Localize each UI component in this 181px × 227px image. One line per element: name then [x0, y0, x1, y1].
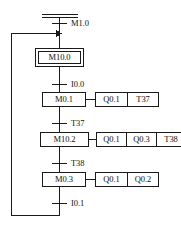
action-row-step-3: Q0.1 Q0.2	[95, 172, 159, 187]
transition-label-i0-1: I0.1	[71, 199, 84, 208]
transition-label-m1-0: M1.0	[71, 19, 89, 28]
step-m10-2[interactable]: M10.2	[40, 132, 89, 147]
step-m10-2-label: M10.2	[54, 135, 76, 144]
action-row-step-1: Q0.1 T37	[95, 92, 159, 107]
step-m0-3-label: M0.3	[55, 175, 73, 184]
action-t37-step-1[interactable]: T37	[127, 92, 159, 107]
transition-label-t37: T37	[71, 119, 84, 128]
sfc-diagram: M10.0 M0.1 Q0.1 T37 M10.2 Q0.1 Q0.3 T38 …	[0, 0, 181, 227]
step-m0-3[interactable]: M0.3	[42, 172, 86, 187]
sfc-connection-lines	[0, 0, 181, 227]
transition-label-i0-0: I0.0	[71, 80, 84, 89]
initial-step-m10-0-label: M10.0	[38, 51, 81, 64]
action-q0-3-step-2[interactable]: Q0.3	[126, 132, 156, 147]
action-q0-1-step-3[interactable]: Q0.1	[95, 172, 127, 187]
transition-label-t38: T38	[71, 159, 84, 168]
action-t38-step-2[interactable]: T38	[156, 132, 181, 147]
initial-step-m10-0[interactable]: M10.0	[35, 48, 84, 67]
action-q0-1-step-2[interactable]: Q0.1	[96, 132, 126, 147]
action-q0-2-step-3[interactable]: Q0.2	[127, 172, 159, 187]
step-m0-1-label: M0.1	[55, 95, 73, 104]
action-row-step-2: Q0.1 Q0.3 T38	[96, 132, 181, 147]
step-m0-1[interactable]: M0.1	[42, 92, 86, 107]
action-q0-1-step-1[interactable]: Q0.1	[95, 92, 127, 107]
